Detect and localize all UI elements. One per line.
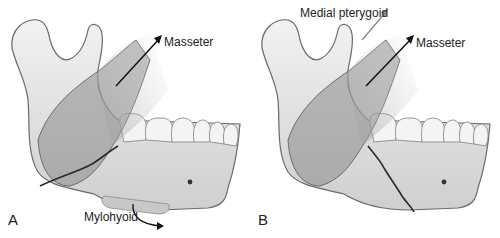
panel-b: Medial pterygoid Masseter B [250,0,500,238]
arrowhead-icon [157,222,164,230]
panel-letter-a: A [8,212,18,227]
label-mylohyoid: Mylohyoid [84,211,138,223]
label-medial-pterygoid: Medial pterygoid [300,7,388,19]
label-masseter: Masseter [416,37,465,49]
panel-a: Masseter Mylohyoid A [0,0,250,238]
label-masseter: Masseter [164,36,213,48]
mental-foramen [188,180,193,185]
panel-letter-b: B [258,212,268,227]
mental-foramen [442,180,447,185]
